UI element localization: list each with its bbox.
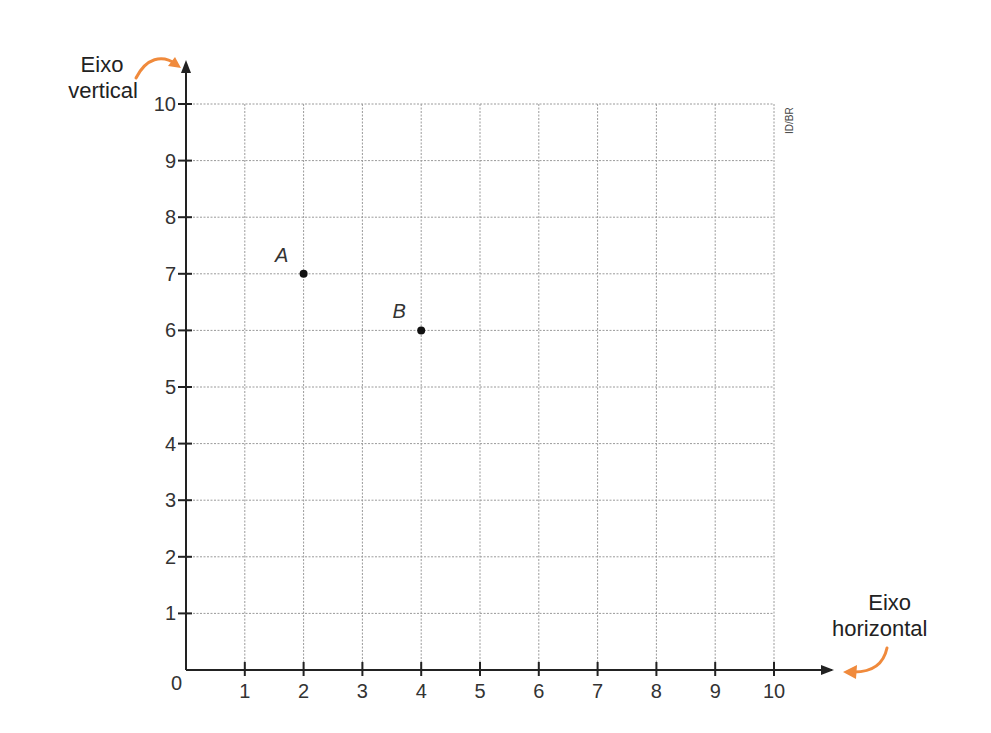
y-axis-callout-arrowhead-icon — [168, 57, 181, 68]
y-tick-label: 3 — [165, 489, 176, 511]
y-tick-label: 4 — [165, 433, 176, 455]
x-axis-title: Eixo horizontal — [852, 590, 927, 642]
x-tick-label: 1 — [239, 680, 250, 702]
point-b — [417, 326, 425, 334]
y-tick-label: 5 — [165, 376, 176, 398]
y-tick-label: 7 — [165, 263, 176, 285]
x-tick-label: 8 — [651, 680, 662, 702]
origin-label: 0 — [171, 672, 182, 694]
y-tick-label: 8 — [165, 206, 176, 228]
y-tick-label: 1 — [165, 602, 176, 624]
x-axis-callout-arrow-icon — [854, 648, 887, 672]
x-tick-label: 10 — [763, 680, 785, 702]
y-axis-title-line2: vertical — [56, 78, 138, 104]
y-axis-title-line1: Eixo — [70, 52, 134, 78]
y-axis-callout-arrow-icon — [136, 59, 176, 78]
point-label-b: B — [393, 300, 406, 322]
x-axis-callout-arrowhead-icon — [843, 665, 857, 679]
x-tick-label: 9 — [710, 680, 721, 702]
x-tick-label: 4 — [416, 680, 427, 702]
y-tick-label: 6 — [165, 319, 176, 341]
x-tick-label: 6 — [533, 680, 544, 702]
x-tick-label: 7 — [592, 680, 603, 702]
y-axis-title: Eixo vertical — [66, 52, 138, 104]
y-tick-label: 10 — [154, 93, 176, 115]
x-axis-title-line1: Eixo — [852, 590, 927, 616]
y-tick-label: 9 — [165, 150, 176, 172]
y-tick-label: 2 — [165, 546, 176, 568]
point-label-a: A — [274, 244, 288, 266]
point-a — [300, 270, 308, 278]
x-axis-title-line2: horizontal — [832, 616, 927, 642]
x-axis-arrow-icon — [821, 665, 834, 675]
x-tick-label: 3 — [357, 680, 368, 702]
image-credit: ID/BR — [784, 107, 795, 134]
x-tick-label: 5 — [474, 680, 485, 702]
y-axis-arrow-icon — [181, 60, 191, 73]
x-tick-label: 2 — [298, 680, 309, 702]
